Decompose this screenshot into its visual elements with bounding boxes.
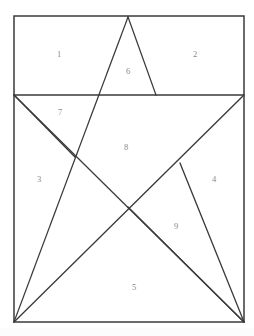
segment-apex-to-upper-right [128, 17, 156, 95]
bottom-margin-strip [0, 328, 254, 336]
region-label-7: 7 [58, 107, 62, 117]
region-label-9: 9 [174, 221, 178, 231]
star-figure-container: 1 2 3 4 5 6 7 8 9 [0, 0, 254, 336]
region-label-1: 1 [57, 49, 61, 59]
star-in-rectangle-figure: 1 2 3 4 5 6 7 8 9 [0, 0, 254, 336]
header-text-fragment [0, 0, 120, 9]
bounding-rectangle [14, 16, 244, 322]
segment-right-vertex-spur [180, 163, 244, 322]
region-label-4: 4 [212, 174, 217, 184]
segment-bottom-vertex-spur [128, 207, 244, 322]
segment-left-vertex-spur [14, 95, 75, 157]
region-label-3: 3 [37, 174, 41, 184]
region-label-5: 5 [132, 282, 136, 292]
region-label-6: 6 [126, 66, 130, 76]
region-label-8: 8 [124, 142, 128, 152]
region-label-2: 2 [193, 49, 197, 59]
segment-apex-to-left-foot [14, 17, 128, 322]
